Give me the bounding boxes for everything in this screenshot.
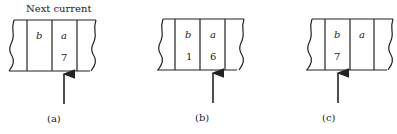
- cell-value: 6: [210, 52, 216, 62]
- cell-label-a: a: [359, 30, 365, 40]
- cell-label-a: a: [210, 30, 216, 40]
- cell-label-b: b: [334, 30, 340, 40]
- cell-label-b: b: [36, 31, 42, 41]
- next-current-heading: Next current: [26, 4, 91, 14]
- torn-edge-right: [91, 20, 96, 71]
- cell-value: 1: [186, 52, 192, 62]
- caption-b: (b): [195, 113, 209, 123]
- panel-b-stack: [157, 19, 244, 103]
- cell-label-a: a: [61, 31, 67, 41]
- caption-c: (c): [322, 113, 335, 123]
- caption-a: (a): [47, 114, 61, 124]
- panel-a-stack: [9, 20, 96, 104]
- cell-label-b: b: [185, 30, 191, 40]
- torn-edge-left: [9, 20, 14, 71]
- cell-value: 7: [334, 52, 340, 62]
- panel-c-stack: [306, 19, 393, 103]
- cell-value: 7: [61, 53, 67, 63]
